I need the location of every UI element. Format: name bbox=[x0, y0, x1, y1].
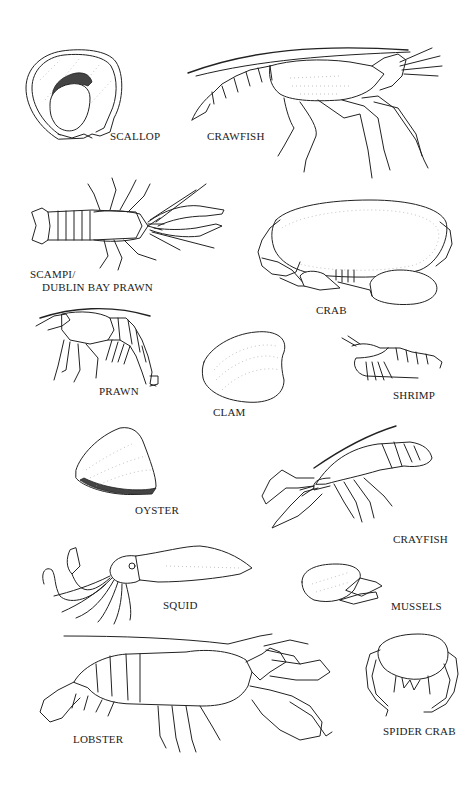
label-scampi-line2: DUBLIN BAY PRAWN bbox=[30, 281, 153, 294]
label-lobster: LOBSTER bbox=[73, 733, 123, 746]
label-mussels: MUSSELS bbox=[391, 600, 442, 613]
label-scampi-line1: SCAMPI/ bbox=[30, 268, 75, 280]
label-shrimp: SHRIMP bbox=[393, 389, 435, 402]
spider-crab-illustration bbox=[366, 634, 458, 716]
oyster-illustration bbox=[76, 428, 156, 495]
label-scampi: SCAMPI/ DUBLIN BAY PRAWN bbox=[30, 268, 153, 294]
scallop-illustration bbox=[26, 50, 122, 139]
prawn-illustration bbox=[36, 309, 158, 386]
crayfish-illustration bbox=[262, 426, 432, 528]
seafood-identification-chart: SCALLOP CRAWFISH SCAMPI/ DUBLIN BAY PRAW… bbox=[0, 0, 473, 790]
label-crayfish: CRAYFISH bbox=[393, 533, 448, 546]
label-crawfish: CRAWFISH bbox=[207, 130, 265, 143]
label-clam: CLAM bbox=[213, 406, 246, 419]
label-prawn: PRAWN bbox=[99, 385, 139, 398]
crawfish-illustration bbox=[188, 48, 442, 178]
squid-illustration bbox=[43, 546, 252, 624]
label-scallop: SCALLOP bbox=[110, 130, 160, 143]
shrimp-illustration bbox=[342, 336, 442, 380]
scampi-illustration bbox=[32, 178, 224, 270]
label-spider-crab: SPIDER CRAB bbox=[383, 725, 456, 738]
label-oyster: OYSTER bbox=[135, 504, 179, 517]
crab-illustration bbox=[258, 200, 452, 305]
clam-illustration bbox=[202, 332, 284, 403]
mussels-illustration bbox=[302, 564, 382, 604]
label-crab: CRAB bbox=[316, 304, 347, 317]
label-squid: SQUID bbox=[163, 599, 198, 612]
